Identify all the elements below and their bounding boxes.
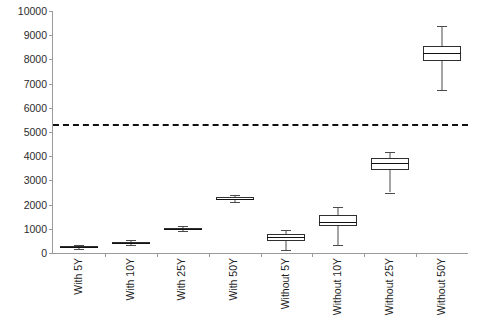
min-cap [385,193,395,194]
min-cap [437,90,447,91]
plot-area: 1000090008000700060005000400030002000100… [52,11,468,254]
box-plot-item[interactable] [53,11,105,253]
x-category-label: With 10Y [104,258,156,320]
lower-whisker [286,241,287,250]
median-line [267,237,305,238]
x-tick-mark [261,253,262,257]
boxplot-figure: 1000090008000700060005000400030002000100… [0,0,478,323]
y-tick-label: 8000 [24,51,47,67]
x-category-label: With 5Y [52,258,104,320]
median-line [112,243,150,244]
x-category-label-text: Without 50Y [436,258,447,315]
y-tick-label: 7000 [24,76,47,92]
median-line [60,247,98,248]
x-category-label: Without 50Y [415,258,467,320]
median-line [423,53,461,54]
min-cap [333,245,343,246]
x-category-label-text: With 5Y [73,258,84,295]
box-plot-item[interactable] [364,11,416,253]
upper-whisker [338,207,339,216]
box-plot-item[interactable] [105,11,157,253]
max-cap [437,26,447,27]
x-category-label-text: Without 10Y [332,258,343,315]
median-line [319,222,357,223]
box-plot-item[interactable] [416,11,468,253]
upper-whisker [442,26,443,47]
x-tick-mark [364,253,365,257]
lower-whisker [338,226,339,245]
x-category-label: Without 25Y [363,258,415,320]
y-tick-label: 4000 [24,148,47,164]
min-cap [178,231,188,232]
max-cap [385,152,395,153]
y-tick-label: 9000 [24,27,47,43]
min-cap [74,249,84,250]
x-tick-mark [157,253,158,257]
x-tick-mark [105,253,106,257]
x-tick-mark [416,253,417,257]
x-category-label-text: With 10Y [125,258,136,301]
y-tick-label: 2000 [24,197,47,213]
max-cap [333,207,343,208]
x-category-label-text: Without 5Y [280,258,291,309]
y-tick-label: 6000 [24,100,47,116]
x-category-label: Without 5Y [260,258,312,320]
x-category-label-text: With 25Y [176,258,187,301]
y-tick-label: 1000 [24,221,47,237]
x-category-label: With 25Y [156,258,208,320]
lower-whisker [442,61,443,90]
lower-whisker [390,170,391,193]
box-plot-item[interactable] [157,11,209,253]
min-cap [126,245,136,246]
x-category-label-text: With 50Y [228,258,239,301]
x-tick-mark [209,253,210,257]
box-plot-item[interactable] [209,11,261,253]
min-cap [230,202,240,203]
x-category-label: With 50Y [208,258,260,320]
y-tick-label: 10000 [18,3,47,19]
x-category-label: Without 10Y [311,258,363,320]
median-line [164,229,202,230]
median-line [371,163,409,164]
x-category-label-text: Without 25Y [384,258,395,315]
y-tick-label: 3000 [24,172,47,188]
box-plot-item[interactable] [312,11,364,253]
box-plot-item[interactable] [261,11,313,253]
max-cap [281,230,291,231]
y-tick-mark [49,253,53,254]
y-tick-label: 5000 [24,124,47,140]
y-tick-label: 0 [41,245,47,261]
median-line [216,199,254,200]
min-cap [281,250,291,251]
x-tick-mark [312,253,313,257]
max-cap [230,195,240,196]
